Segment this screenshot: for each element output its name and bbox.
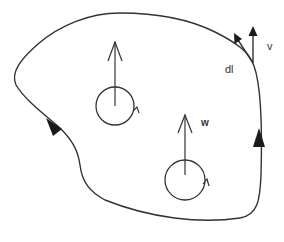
vorticity-label: w — [201, 118, 209, 128]
vortex-upper-left — [96, 42, 139, 125]
closed-contour — [14, 13, 261, 220]
line-element-label: dl — [225, 64, 234, 75]
contour-arrow-right-icon — [253, 128, 265, 147]
velocity-label: v — [267, 41, 273, 52]
circulation-diagram — [0, 0, 284, 242]
line-element-vector-icon — [234, 33, 253, 63]
